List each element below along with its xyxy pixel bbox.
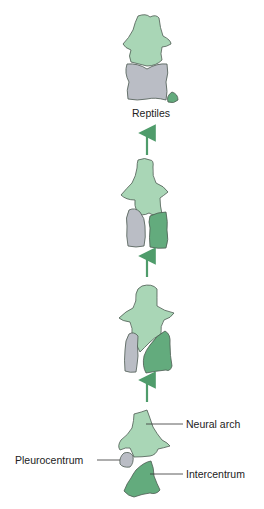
intercentrum-shape <box>168 92 179 103</box>
neural-arch-shape <box>123 15 171 66</box>
pleurocentrum-label: Pleurocentrum <box>15 455 83 466</box>
reptile-vertebra <box>123 15 178 103</box>
neural-arch-shape <box>119 410 170 457</box>
pleurocentrum-shape <box>120 452 133 467</box>
vertebra-evolution-diagram: Reptiles <box>0 0 264 509</box>
intercentrum-shape <box>149 212 168 248</box>
neural-arch-shape <box>121 159 168 216</box>
reptiles-label: Reptiles <box>132 107 170 119</box>
pleurocentrum-shape <box>125 333 139 372</box>
pleurocentrum-shape <box>126 64 168 100</box>
intercentrum-label: Intercentrum <box>186 469 245 480</box>
neural-arch-label: Neural arch <box>186 419 240 430</box>
stage2-vertebra <box>119 285 174 373</box>
stage1-vertebra <box>119 410 170 497</box>
stage3-vertebra <box>121 159 168 249</box>
